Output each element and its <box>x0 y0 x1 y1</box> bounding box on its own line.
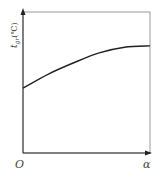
y-axis-label-unit: (℃) <box>10 22 19 37</box>
y-axis-label: tgr(℃) <box>9 22 21 48</box>
svg-text:tgr(℃): tgr(℃) <box>9 22 21 48</box>
origin-label: O <box>15 158 24 171</box>
x-axis-arrow-icon <box>145 151 152 156</box>
data-curve <box>23 46 150 88</box>
x-axis-label: α <box>143 158 151 171</box>
plot-frame <box>23 12 150 153</box>
chart: O α tgr(℃) <box>0 0 164 178</box>
